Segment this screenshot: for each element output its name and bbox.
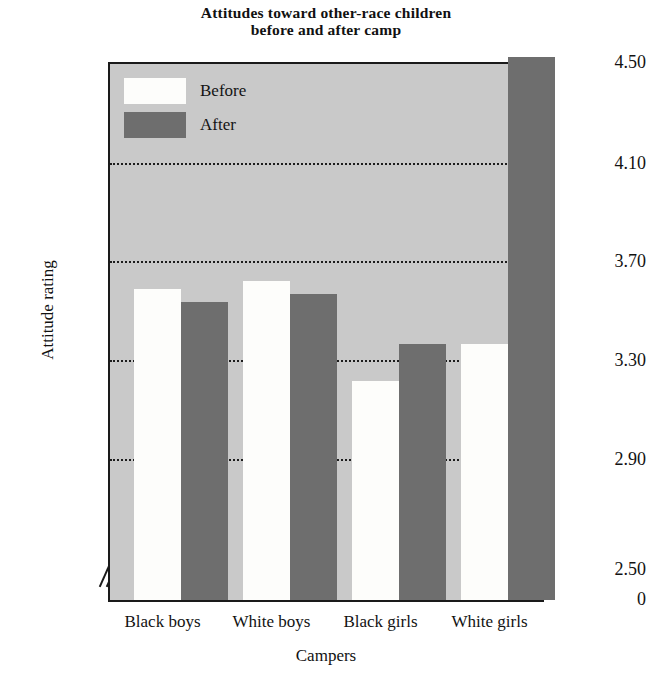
plot-inner: Before After [110, 64, 542, 600]
bar-white-boys-after[interactable] [290, 294, 337, 600]
y-tick-2.90: 2.90 [584, 449, 646, 470]
legend-swatch-before-icon [124, 78, 186, 104]
bar-black-girls-after[interactable] [399, 344, 446, 600]
gridline-3.70 [110, 261, 542, 263]
gridline-4.10 [110, 163, 542, 165]
bar-white-girls-before[interactable] [461, 344, 508, 600]
bar-black-girls-before[interactable] [352, 381, 399, 600]
plot-area: Before After [108, 62, 544, 602]
y-axis-label: Attitude rating [38, 220, 58, 400]
bar-white-boys-before[interactable] [243, 281, 290, 600]
legend-label-after: After [200, 115, 236, 135]
x-tick-black-girls: Black girls [326, 612, 435, 632]
y-tick-4.10: 4.10 [584, 153, 646, 174]
bar-black-boys-before[interactable] [134, 289, 181, 600]
chart-title-line-2: before and after camp [108, 21, 544, 38]
x-tick-black-boys: Black boys [108, 612, 217, 632]
chart-title-line-1: Attitudes toward other-race children [201, 4, 451, 21]
legend-item-before[interactable]: Before [124, 78, 304, 104]
y-tick-2.50: 2.50 [584, 559, 646, 580]
chart-title: Attitudes toward other-race children bef… [108, 4, 544, 38]
x-tick-white-girls: White girls [435, 612, 544, 632]
y-tick-3.30: 3.30 [584, 350, 646, 371]
y-tick-4.50: 4.50 [584, 52, 646, 73]
legend-label-before: Before [200, 81, 246, 101]
y-tick-zero: 0 [584, 589, 646, 610]
legend-swatch-after-icon [124, 112, 186, 138]
x-axis-label: Campers [108, 646, 544, 666]
x-tick-white-boys: White boys [217, 612, 326, 632]
legend-item-after[interactable]: After [124, 112, 304, 138]
bar-white-girls-after[interactable] [508, 57, 555, 600]
y-tick-3.70: 3.70 [584, 251, 646, 272]
legend: Before After [124, 78, 304, 146]
bar-black-boys-after[interactable] [181, 302, 228, 600]
